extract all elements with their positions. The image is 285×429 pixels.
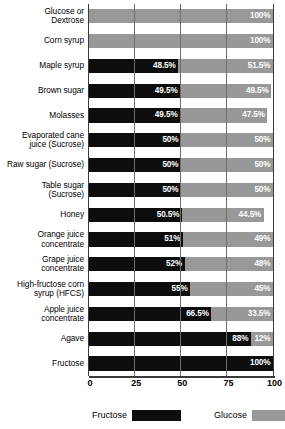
gridline-25 <box>134 153 135 178</box>
gridline-75 <box>226 78 227 103</box>
gridline-50 <box>180 351 181 376</box>
gridline-75 <box>226 202 227 227</box>
category-label: Grape juice concentrate <box>0 255 88 274</box>
axis-line-right <box>273 326 274 351</box>
category-label: Apple juice concentrate <box>0 305 88 324</box>
bar-track: 49.5%47.5% <box>88 103 274 128</box>
category-label: Raw sugar (Sucrose) <box>0 160 88 169</box>
bar-value-label: 50% <box>162 136 181 144</box>
gridline-50 <box>180 178 181 203</box>
bar-value-label: 12% <box>254 335 273 343</box>
gridline-50 <box>180 29 181 54</box>
axis-line-left <box>88 277 89 302</box>
gridline-75 <box>226 277 227 302</box>
x-tick-label-100: 100 <box>267 378 282 389</box>
bar-value-label: 50% <box>254 186 273 194</box>
gridline-75 <box>226 153 227 178</box>
axis-line-right <box>273 178 274 203</box>
axis-line-left <box>88 128 89 153</box>
chart-row: Fructose100% <box>0 351 285 376</box>
chart-row: Glucose or Dextrose100% <box>0 4 285 29</box>
bar-value-label: 50% <box>162 186 181 194</box>
category-label: Orange juice concentrate <box>0 230 88 249</box>
category-label: Agave <box>0 334 88 343</box>
gridline-75 <box>226 29 227 54</box>
gridline-50 <box>180 78 181 103</box>
gridline-25 <box>134 128 135 153</box>
bar-segment-fructose: 50.5% <box>89 208 182 222</box>
gridline-50 <box>180 202 181 227</box>
category-label: Fructose <box>0 359 88 368</box>
axis-line-right <box>273 252 274 277</box>
bar-segment-glucose: 47.5% <box>180 108 267 122</box>
axis-line-right <box>273 202 274 227</box>
category-label: Honey <box>0 210 88 219</box>
gridline-50 <box>180 153 181 178</box>
gridline-25 <box>134 78 135 103</box>
bar-segment-glucose: 12% <box>251 332 273 346</box>
gridline-50 <box>180 326 181 351</box>
gridline-75 <box>226 4 227 29</box>
bar-value-label: 33.5% <box>248 310 273 318</box>
bar-track: 50.5%44.5% <box>88 202 274 227</box>
legend-entry-glucose: Glucose <box>214 410 285 421</box>
gridline-25 <box>134 103 135 128</box>
legend-label: Glucose <box>214 410 247 420</box>
gridline-75 <box>226 103 227 128</box>
bar-value-label: 50% <box>162 161 181 169</box>
bar-value-label: 51.5% <box>248 62 273 70</box>
chart-row: Table sugar (Sucrose)50%50% <box>0 178 285 203</box>
chart-row: High-fructose corn syrup (HFCS)55%45% <box>0 277 285 302</box>
chart-row: Grape juice concentrate52%48% <box>0 252 285 277</box>
axis-line-right <box>273 128 274 153</box>
axis-line-right <box>273 227 274 252</box>
bar-track: 52%48% <box>88 252 274 277</box>
bar-value-label: 45% <box>254 285 273 293</box>
gridline-25 <box>134 178 135 203</box>
bar-track: 48.5%51.5% <box>88 54 274 79</box>
gridline-75 <box>226 128 227 153</box>
axis-line-right <box>273 103 274 128</box>
chart-row: Molasses49.5%47.5% <box>0 103 285 128</box>
x-tick-label-0: 0 <box>87 378 92 389</box>
bar-track: 50%50% <box>88 153 274 178</box>
bar-value-label: 49% <box>254 235 273 243</box>
bar-track: 100% <box>88 351 274 376</box>
bar-value-label: 88% <box>232 335 251 343</box>
axis-line-left <box>88 351 89 376</box>
axis-line-right <box>273 78 274 103</box>
category-label: Table sugar (Sucrose) <box>0 181 88 200</box>
gridline-25 <box>134 202 135 227</box>
category-label: Brown sugar <box>0 86 88 95</box>
bar-segment-fructose: 66.5% <box>89 307 211 321</box>
gridline-50 <box>180 252 181 277</box>
chart-row: Agave88%12% <box>0 326 285 351</box>
bar-track: 50%50% <box>88 178 274 203</box>
bar-track: 50%50% <box>88 128 274 153</box>
chart-row: Honey50.5%44.5% <box>0 202 285 227</box>
gridline-25 <box>134 4 135 29</box>
chart-row: Raw sugar (Sucrose)50%50% <box>0 153 285 178</box>
bar-value-label: 49.5% <box>155 87 180 95</box>
gridline-50 <box>180 54 181 79</box>
chart-legend: FructoseGlucose <box>0 404 285 426</box>
axis-line-left <box>88 326 89 351</box>
bar-track: 49.5%49.5% <box>88 78 274 103</box>
bar-value-label: 48.5% <box>153 62 178 70</box>
gridline-25 <box>134 252 135 277</box>
bar-track: 100% <box>88 29 274 54</box>
bar-segment-fructose: 51% <box>89 232 183 246</box>
bar-value-label: 66.5% <box>186 310 211 318</box>
chart-row: Corn syrup100% <box>0 29 285 54</box>
bar-track: 51%49% <box>88 227 274 252</box>
gridline-25 <box>134 351 135 376</box>
axis-line-left <box>88 302 89 327</box>
gridline-25 <box>134 302 135 327</box>
axis-line-right <box>273 4 274 29</box>
axis-line-right <box>273 351 274 376</box>
axis-line-left <box>88 227 89 252</box>
axis-line-left <box>88 103 89 128</box>
bar-segment-glucose: 48% <box>185 257 273 271</box>
category-label: High-fructose corn syrup (HFCS) <box>0 280 88 299</box>
gridline-50 <box>180 4 181 29</box>
